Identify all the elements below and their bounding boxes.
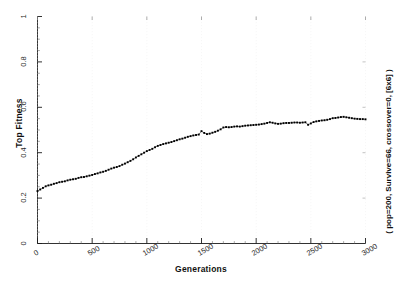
plot-area — [0, 0, 401, 289]
data-point-marker — [334, 117, 336, 119]
data-point-marker — [78, 177, 80, 179]
data-point-marker — [173, 140, 175, 142]
data-point-marker — [239, 126, 241, 128]
data-point-marker — [269, 121, 271, 123]
data-point-marker — [365, 118, 367, 120]
data-point-marker — [255, 124, 257, 126]
data-point-marker — [272, 122, 274, 124]
x-axis-title: Generations — [37, 264, 365, 274]
data-point-marker — [277, 123, 279, 125]
data-point-marker — [143, 152, 145, 154]
data-point-marker — [168, 142, 170, 144]
data-point-marker — [53, 183, 55, 185]
data-point-marker — [359, 118, 361, 120]
data-point-marker — [129, 160, 131, 162]
y-tick-label: 0.6 — [18, 94, 27, 120]
data-point-marker — [97, 172, 99, 174]
data-point-marker — [244, 125, 246, 127]
data-point-marker — [225, 126, 227, 128]
data-point-marker — [201, 130, 203, 132]
data-point-marker — [288, 122, 290, 124]
data-point-marker — [209, 133, 211, 135]
data-point-marker — [362, 118, 364, 120]
data-point-marker — [321, 120, 323, 122]
data-point-marker — [332, 117, 334, 119]
data-point-marker — [258, 124, 260, 126]
data-point-marker — [231, 126, 233, 128]
data-point-marker — [351, 117, 353, 119]
data-point-marker — [250, 124, 252, 126]
data-point-marker — [99, 172, 101, 174]
data-point-marker — [228, 126, 230, 128]
data-point-marker — [94, 173, 96, 175]
data-point-marker — [132, 158, 134, 160]
data-point-marker — [108, 169, 110, 171]
data-point-marker — [56, 182, 58, 184]
data-point-marker — [105, 170, 107, 172]
data-point-marker — [119, 165, 121, 167]
data-point-marker — [127, 161, 129, 163]
data-point-marker — [236, 125, 238, 127]
data-point-marker — [83, 176, 85, 178]
data-point-marker — [181, 138, 183, 140]
data-point-marker — [170, 141, 172, 143]
y-tick-label: 1 — [18, 3, 27, 29]
data-point-marker — [261, 123, 263, 125]
data-point-marker — [220, 128, 222, 130]
data-point-marker — [75, 178, 77, 180]
data-point-marker — [315, 120, 317, 122]
parameter-annotation: ( pop=200, Survive=66, crossover=0, [6x6… — [384, 22, 393, 282]
data-point-marker — [58, 181, 60, 183]
data-point-marker — [110, 168, 112, 170]
data-point-marker — [304, 121, 306, 123]
data-point-marker — [37, 190, 39, 192]
data-point-marker — [176, 139, 178, 141]
data-point-marker — [302, 122, 304, 124]
data-point-marker — [310, 122, 312, 124]
data-point-marker — [72, 178, 74, 180]
data-point-marker — [195, 134, 197, 136]
y-tick-label: 0.4 — [18, 139, 27, 165]
data-point-marker — [121, 164, 123, 166]
data-point-marker — [356, 118, 358, 120]
chart-figure: Top Fitness Generations ( pop=200, Survi… — [0, 0, 401, 289]
data-point-marker — [187, 136, 189, 138]
data-point-marker — [102, 171, 104, 173]
data-point-marker — [242, 125, 244, 127]
data-point-marker — [50, 184, 52, 186]
data-point-marker — [135, 157, 137, 159]
data-point-marker — [86, 175, 88, 177]
data-point-marker — [160, 144, 162, 146]
data-point-marker — [340, 116, 342, 118]
data-point-marker — [293, 122, 295, 124]
data-point-marker — [222, 127, 224, 129]
data-point-marker — [326, 119, 328, 121]
data-point-marker — [165, 142, 167, 144]
data-point-marker — [146, 150, 148, 152]
data-point-marker — [274, 122, 276, 124]
data-point-marker — [266, 122, 268, 124]
y-tick-label: 0.2 — [18, 185, 27, 211]
data-point-marker — [345, 116, 347, 118]
data-point-marker — [162, 143, 164, 145]
data-point-marker — [184, 137, 186, 139]
data-point-marker — [116, 166, 118, 168]
data-point-marker — [192, 135, 194, 137]
data-point-marker — [88, 175, 90, 177]
data-point-marker — [329, 118, 331, 120]
data-point-marker — [61, 181, 63, 183]
data-point-marker — [285, 122, 287, 124]
data-point-marker — [263, 123, 265, 125]
data-point-marker — [113, 167, 115, 169]
data-point-marker — [91, 174, 93, 176]
data-point-marker — [154, 146, 156, 148]
data-point-marker — [138, 155, 140, 157]
data-point-marker — [252, 124, 254, 126]
data-point-marker — [124, 163, 126, 165]
data-point-marker — [67, 179, 69, 181]
data-point-marker — [198, 134, 200, 136]
data-point-marker — [140, 153, 142, 155]
data-point-marker — [179, 138, 181, 140]
data-point-marker — [45, 185, 47, 187]
data-point-marker — [283, 122, 285, 124]
